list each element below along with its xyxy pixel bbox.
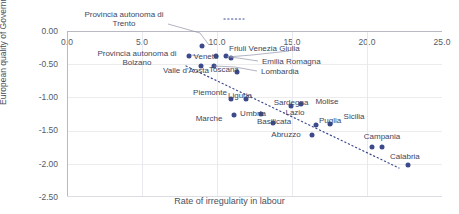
- point-label-valle: Valle d'Aosta: [163, 66, 209, 75]
- label-text-bolzano-2: Bolzano: [123, 58, 152, 67]
- point-label-campania: Campania: [364, 132, 400, 141]
- point-label-puglia: Puglia: [319, 116, 341, 125]
- point-label-basilicata: Basilicata: [257, 117, 291, 126]
- y-tick-4: -2.00: [10, 159, 58, 169]
- point-label-lazio: Lazio: [285, 108, 304, 117]
- point-label-piemonte: Piemonte: [193, 88, 227, 97]
- data-point: [200, 44, 205, 49]
- y-tick-2: -1.00: [10, 92, 58, 102]
- gridline-v-4: [367, 31, 368, 197]
- y-axis-title: European quality of Government index: [0, 0, 8, 105]
- y-tick-3: -1.50: [10, 125, 58, 135]
- data-point: [314, 122, 319, 127]
- data-point: [405, 163, 410, 168]
- x-axis-line: [67, 31, 442, 32]
- point-label-emilia: Emilia Romagna: [262, 57, 321, 66]
- gridline-h-4: [67, 164, 442, 165]
- y-axis-line: [67, 31, 68, 197]
- data-point: [228, 55, 233, 60]
- point-label-liguria: Liguria: [228, 91, 252, 100]
- point-label-sardegna: Sardegna: [274, 98, 309, 107]
- point-label-sicilia: Sicilia: [344, 112, 365, 121]
- point-label-marche: Marche: [196, 114, 223, 123]
- plot-bottom-line: [67, 196, 442, 197]
- point-label-bolzano: Provincia autonoma di Bolzano: [77, 49, 197, 67]
- point-label-friuli: Friuli Venezia Giulia: [229, 44, 300, 53]
- scatter-chart: Rate of irregularity in labour European …: [0, 0, 459, 214]
- label-text-trento-2: Trento: [113, 19, 136, 28]
- point-label-toscana: Toscana: [209, 65, 239, 74]
- gridline-h-2: [67, 97, 442, 98]
- point-label-lombardia: Lombardia: [261, 67, 299, 76]
- y-tick-1: -0.50: [10, 59, 58, 69]
- point-label-molise: Molise: [315, 97, 338, 106]
- y-tick-0: 0.00: [10, 26, 58, 36]
- point-label-veneto: Veneto: [194, 52, 219, 61]
- data-point: [309, 133, 314, 138]
- x-axis-title: Rate of irregularity in labour: [0, 196, 459, 206]
- data-point: [231, 113, 236, 118]
- label-text-trento-1: Provincia autonoma di: [84, 10, 163, 19]
- y-tick-5: -2.50: [10, 192, 58, 202]
- data-point: [380, 145, 385, 150]
- point-label-trento: Provincia autonoma di Trento: [64, 10, 184, 28]
- point-label-abruzzo: Abruzzo: [271, 130, 300, 139]
- data-point: [369, 144, 374, 149]
- point-label-calabria: Calabria: [390, 152, 420, 161]
- label-text-bolzano-1: Provincia autonoma di: [97, 49, 176, 58]
